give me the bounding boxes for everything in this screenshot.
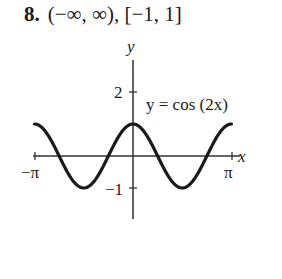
x-axis-label: x (237, 147, 246, 166)
y-axis-label: y (125, 37, 135, 56)
y-tick-label-2: 2 (114, 83, 123, 102)
y-tick-label-neg1: −1 (105, 180, 123, 199)
x-tick-label-neg-pi: −π (21, 163, 40, 182)
graph: y x 2 −1 −π π y = cos (2x) (0, 0, 282, 279)
function-label: y = cos (2x) (146, 95, 228, 114)
x-tick-label-pi: π (224, 163, 233, 182)
